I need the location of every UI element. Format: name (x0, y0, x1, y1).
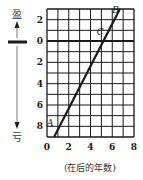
zero-marker-bar (8, 41, 27, 44)
annotations: ABC (46, 5, 119, 128)
y-tick-label: 2 (37, 57, 43, 67)
point-label-c: C (97, 27, 104, 37)
profit-label: 盈 (12, 9, 22, 20)
x-tick-label: 8 (131, 142, 137, 152)
x-tick-label: 0 (44, 142, 50, 152)
y-tick-label: 2 (37, 15, 43, 25)
y-tick-labels: 202468 (37, 15, 43, 132)
x-tick-label: 6 (109, 142, 115, 152)
x-tick-labels: 02468 (44, 142, 137, 152)
chart: ABC 02468 202468 盈 亏 (在后的年数) (0, 0, 143, 180)
point-label-a: A (46, 118, 54, 128)
x-tick-label: 4 (87, 142, 93, 152)
loss-label: 亏 (12, 132, 22, 143)
up-arrow-icon (15, 21, 20, 28)
point-label-b: B (111, 5, 119, 15)
grid (47, 9, 134, 137)
y-tick-label: 8 (37, 121, 43, 131)
x-tick-label: 2 (66, 142, 72, 152)
y-tick-label: 0 (37, 36, 43, 46)
x-axis-title: (在后的年数) (64, 162, 116, 173)
profit-loss-indicator: 盈 亏 (8, 9, 27, 143)
down-arrow-icon (15, 122, 20, 129)
y-tick-label: 4 (37, 79, 43, 89)
y-tick-label: 6 (37, 100, 43, 110)
